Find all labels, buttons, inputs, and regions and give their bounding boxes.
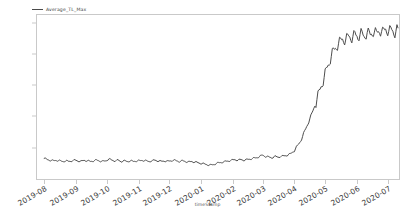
x-axis-tick-mark — [44, 180, 45, 184]
chart-legend: Average_TL_Max — [29, 6, 89, 13]
y-axis-tick-mark — [32, 22, 36, 23]
chart-figure: Average_TL_Max 501001502002502019-082019… — [0, 0, 415, 215]
x-axis-tick-mark — [169, 180, 170, 184]
y-axis-tick-mark — [32, 85, 36, 86]
x-axis-tick-mark — [294, 180, 295, 184]
legend-line-swatch — [32, 9, 43, 11]
x-axis-title: timeStamp — [0, 202, 415, 207]
plot-area — [36, 14, 400, 180]
x-axis-tick-mark — [325, 180, 326, 184]
y-axis-tick-mark — [32, 53, 36, 54]
legend-label: Average_TL_Max — [46, 7, 86, 12]
y-axis-tick-mark — [32, 116, 36, 117]
y-axis-tick-mark — [32, 147, 36, 148]
line-series-average-tl-max — [37, 15, 399, 179]
